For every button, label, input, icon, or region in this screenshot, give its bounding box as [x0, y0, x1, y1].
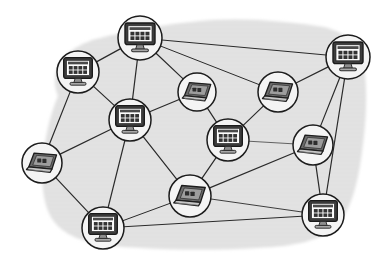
node-desktop-center-left[interactable]: Desktop PC: [109, 99, 151, 141]
node-desktop-bottom-right[interactable]: Desktop PC: [302, 194, 344, 236]
node-laptop-upper-mid-left[interactable]: Laptop: [178, 73, 216, 111]
node-laptop-upper-mid-right[interactable]: Laptop: [258, 72, 298, 112]
node-desktop-center[interactable]: Desktop PC: [207, 119, 249, 161]
node-desktop-top-center[interactable]: Desktop PC: [118, 16, 162, 60]
node-desktop-upper-left[interactable]: Desktop PC: [57, 51, 99, 93]
node-desktop-top-right[interactable]: Desktop PC: [326, 35, 370, 79]
node-laptop-right[interactable]: Laptop: [293, 125, 333, 165]
node-laptop-far-left[interactable]: Laptop: [22, 143, 62, 183]
network-canvas: Desktop PCDesktop PCDesktop PCLaptopLapt…: [0, 0, 386, 268]
node-laptop-bottom-center[interactable]: Laptop: [169, 175, 211, 217]
node-desktop-bottom-left[interactable]: Desktop PC: [82, 207, 124, 249]
network-diagram: Desktop PCDesktop PCDesktop PCLaptopLapt…: [0, 0, 386, 268]
